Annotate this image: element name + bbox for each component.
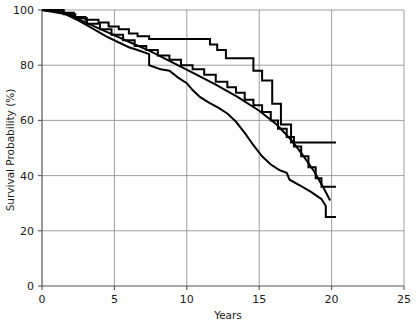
x-tick-label: 15 bbox=[252, 293, 266, 306]
axes-group bbox=[42, 10, 404, 286]
y-axis-title: Survival Probability (%) bbox=[4, 89, 16, 212]
y-tick-label: 40 bbox=[20, 170, 34, 183]
x-axis-title: Years bbox=[213, 309, 242, 321]
y-tick-label: 0 bbox=[27, 280, 34, 293]
x-tick-label: 20 bbox=[325, 293, 339, 306]
survival-curve-b bbox=[42, 10, 336, 187]
x-tick-label: 10 bbox=[180, 293, 194, 306]
x-tick-label: 25 bbox=[397, 293, 411, 306]
y-tick-label: 80 bbox=[20, 59, 34, 72]
y-tick-label: 100 bbox=[13, 4, 34, 17]
x-tick-label: 5 bbox=[111, 293, 118, 306]
tick-labels-group: 0204060801000510152025 bbox=[13, 4, 411, 306]
survival-curve-d bbox=[42, 10, 336, 217]
y-tick-label: 60 bbox=[20, 114, 34, 127]
survival-curve-figure: 0204060801000510152025 Years Survival Pr… bbox=[0, 0, 416, 325]
series-curves-group bbox=[42, 10, 336, 217]
gridlines-group bbox=[42, 10, 404, 286]
y-tick-label: 20 bbox=[20, 225, 34, 238]
tick-marks-group bbox=[38, 10, 404, 290]
x-tick-label: 0 bbox=[39, 293, 46, 306]
survival-curve-a bbox=[42, 10, 336, 142]
chart-canvas: 0204060801000510152025 Years Survival Pr… bbox=[0, 0, 416, 325]
